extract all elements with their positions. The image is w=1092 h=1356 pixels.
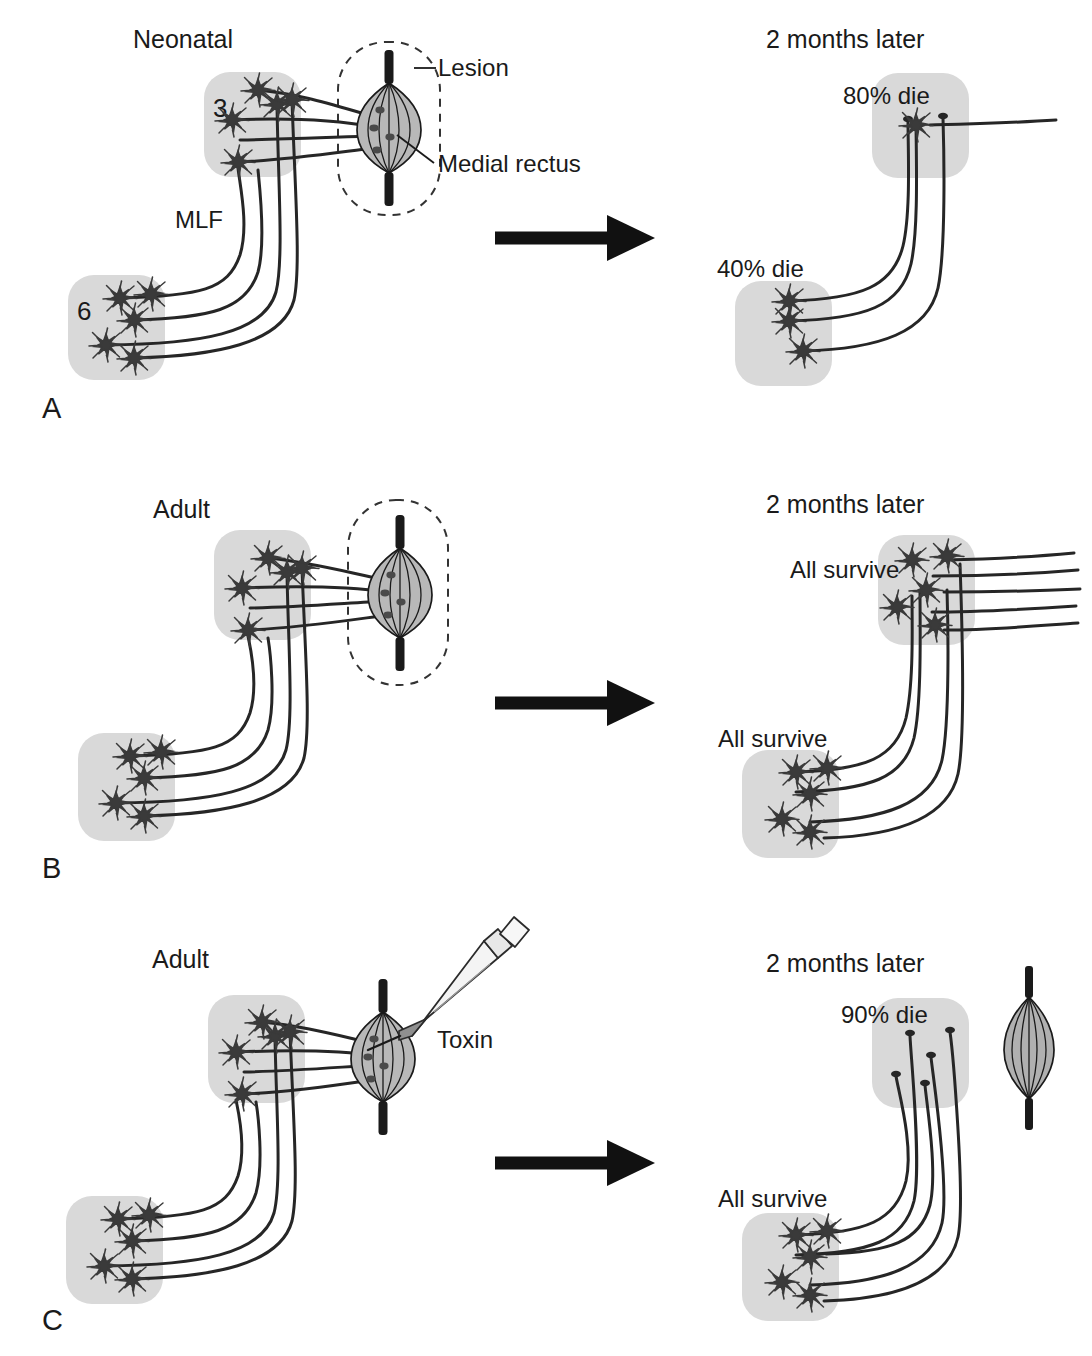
panel-letter-b: B [42, 852, 61, 884]
panel-b-left-title: Adult [153, 495, 210, 523]
medial-rectus-callout-label-a: Medial rectus [438, 150, 581, 177]
upper-outcome-label-b: All survive [790, 556, 899, 583]
medial-rectus-muscle-c [351, 979, 415, 1135]
nucleus-label-3-a: 3 [213, 93, 227, 123]
panel-c-left: Adult [66, 917, 529, 1304]
transition-arrow-c [495, 1140, 655, 1186]
figure-canvas: A Neonatal 3 6 [0, 0, 1092, 1356]
panel-b-right: 2 months later All survive All survive [718, 490, 1080, 858]
panel-a-left-title: Neonatal [133, 25, 233, 53]
panel-c-right: 2 months later 90% die All survive [718, 949, 1054, 1321]
panel-a: A Neonatal 3 6 [42, 25, 1056, 424]
lower-outcome-label-b: All survive [718, 725, 827, 752]
lower-outcome-label-c: All survive [718, 1185, 827, 1212]
panel-b: B Adult [42, 490, 1080, 884]
panel-c-right-title: 2 months later [766, 949, 924, 977]
medial-rectus-muscle-b [368, 515, 432, 671]
panel-letter-a: A [42, 392, 62, 424]
transition-arrow-a [495, 215, 655, 261]
panel-c-left-title: Adult [152, 945, 209, 973]
lower-outcome-label-a: 40% die [717, 255, 804, 282]
lesion-callout-label-a: Lesion [438, 54, 509, 81]
panel-b-left: Adult [78, 495, 448, 841]
nucleus-label-6-a: 6 [77, 296, 91, 326]
upper-outcome-label-c: 90% die [841, 1001, 928, 1028]
panel-c: C Adult [42, 917, 1054, 1336]
atrophic-muscle-c [1004, 966, 1054, 1130]
toxin-label-c: Toxin [437, 1026, 493, 1053]
panel-a-right-title: 2 months later [766, 25, 924, 53]
medial-rectus-muscle-a [357, 50, 421, 206]
panel-a-left: Neonatal 3 6 MLF [68, 25, 581, 380]
oculomotor-nucleus-box-b [214, 530, 311, 640]
mlf-label-a: MLF [175, 206, 223, 233]
upper-outcome-label-a: 80% die [843, 82, 930, 109]
panel-letter-c: C [42, 1304, 63, 1336]
panel-b-right-title: 2 months later [766, 490, 924, 518]
panel-a-right: 2 months later 80% die 40% die [717, 25, 1056, 386]
transition-arrow-b [495, 680, 655, 726]
